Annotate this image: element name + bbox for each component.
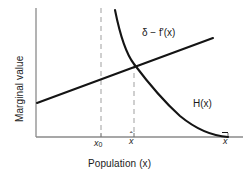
- series-label-marginal-benefit: H(x): [193, 99, 212, 109]
- y-axis-label: Marginal value: [15, 56, 25, 122]
- chart-figure: Marginal value Population (x) δ − f'(x) …: [0, 0, 250, 176]
- x-axis-label: Population (x): [88, 159, 151, 169]
- x-tick-label-xhat: ˆx: [129, 137, 134, 146]
- x-tick-xbar-base: x: [223, 136, 228, 146]
- x-tick-label-xbar: x: [223, 137, 228, 146]
- x-tick-xhat-accent: ˆ: [130, 131, 133, 140]
- x-tick-xbar-accent: [222, 132, 228, 133]
- series-label-marginal-cost: δ − f'(x): [142, 28, 175, 38]
- plot-area: [0, 0, 250, 176]
- x-tick-label-x0: x0: [94, 139, 102, 148]
- x-tick-x0-subscript: 0: [99, 141, 103, 148]
